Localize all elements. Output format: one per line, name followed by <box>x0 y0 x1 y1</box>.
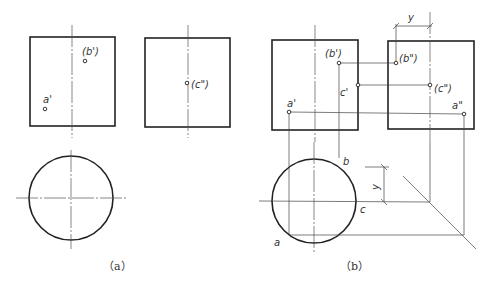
label-a-top: a <box>274 237 280 248</box>
label-b-dblprime: (b") <box>399 53 418 64</box>
panel-a: (b') a' (c") （a） <box>16 25 230 273</box>
label-a-dblprime: a" <box>452 100 463 111</box>
point-b-dblprime <box>394 61 398 65</box>
projection-diagram: (b') a' (c") （a） <box>0 0 489 286</box>
label-c-top: c <box>360 204 366 215</box>
point-c-prime <box>356 83 360 87</box>
label-a-prime-a: a' <box>43 94 52 105</box>
dim-label-y-top: y <box>407 12 415 23</box>
label-b-top: b <box>343 156 349 167</box>
point-c-dblprime-a <box>185 81 189 85</box>
point-a-prime <box>287 110 291 114</box>
panel-b: y y (b') c' a' (b") (c") a" b c a （b） <box>259 12 476 273</box>
label-a-prime: a' <box>287 98 296 109</box>
miter-line-45 <box>403 176 476 249</box>
top-view-h-line-b <box>259 201 430 202</box>
point-b-prime-a <box>83 59 87 63</box>
label-b-prime: (b') <box>325 48 342 59</box>
caption-a: （a） <box>103 260 132 273</box>
label-c-prime: c' <box>340 87 348 98</box>
caption-b: （b） <box>340 260 369 273</box>
label-c-dblprime-a: (c") <box>191 79 209 90</box>
label-c-dblprime: (c") <box>434 83 452 94</box>
point-a-prime-a <box>43 107 47 111</box>
point-c-dblprime <box>428 83 432 87</box>
point-a-dblprime <box>462 112 466 116</box>
label-b-prime-a: (b') <box>82 46 99 57</box>
dim-label-y-bottom: y <box>370 183 381 191</box>
point-b-prime <box>337 61 341 65</box>
front-view-rect-a <box>30 37 115 126</box>
